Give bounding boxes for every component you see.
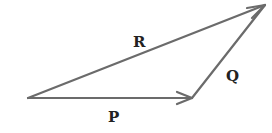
vector-triangle-diagram: R Q P: [0, 0, 272, 133]
label-p: P: [108, 108, 119, 126]
label-q: Q: [226, 67, 239, 85]
label-r: R: [133, 33, 146, 51]
vector-p: [28, 92, 192, 104]
